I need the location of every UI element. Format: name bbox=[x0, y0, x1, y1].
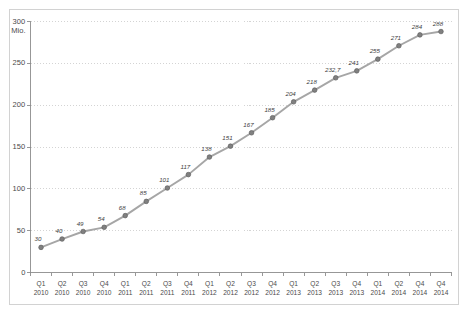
data-point-label: 185 bbox=[255, 106, 285, 113]
data-point-label: 40 bbox=[44, 227, 74, 234]
y-axis-tick-label: 200 bbox=[12, 100, 25, 109]
x-axis-tick-label: Q42014 bbox=[428, 279, 454, 298]
y-axis-tick-label: 300 bbox=[12, 17, 25, 26]
data-point-label: 138 bbox=[191, 145, 221, 152]
x-tick-year: 2014 bbox=[428, 288, 454, 298]
data-point-label: 54 bbox=[86, 215, 116, 222]
data-point-label: 204 bbox=[276, 90, 306, 97]
data-point-label: 151 bbox=[212, 134, 242, 141]
line-chart-plot bbox=[0, 0, 468, 314]
data-point-label: 218 bbox=[297, 78, 327, 85]
y-axis-unit-label: Mio. bbox=[11, 26, 25, 35]
y-axis-tick-label: 50 bbox=[17, 226, 26, 235]
y-axis-tick-label: 0 bbox=[21, 268, 25, 277]
data-point-label: 30 bbox=[23, 235, 53, 242]
data-point-label: 288 bbox=[423, 20, 453, 27]
data-point-label: 167 bbox=[234, 121, 264, 128]
data-point-label: 271 bbox=[381, 34, 411, 41]
data-point-label: 68 bbox=[107, 204, 137, 211]
data-point-label: 232,7 bbox=[318, 66, 348, 73]
y-axis-tick-label: 100 bbox=[12, 184, 25, 193]
y-axis-tick-label: 150 bbox=[12, 142, 25, 151]
data-point-label: 85 bbox=[128, 189, 158, 196]
chart-container: 050100150200250300Mio. Q12010Q22010Q3201… bbox=[0, 0, 468, 314]
data-point-label: 241 bbox=[339, 59, 369, 66]
data-point-label: 101 bbox=[149, 176, 179, 183]
x-tick-quarter: Q4 bbox=[428, 279, 454, 289]
axes bbox=[27, 22, 452, 277]
data-point-label: 255 bbox=[360, 47, 390, 54]
y-axis-tick-label: 250 bbox=[12, 58, 25, 67]
data-point-label: 117 bbox=[170, 163, 200, 170]
